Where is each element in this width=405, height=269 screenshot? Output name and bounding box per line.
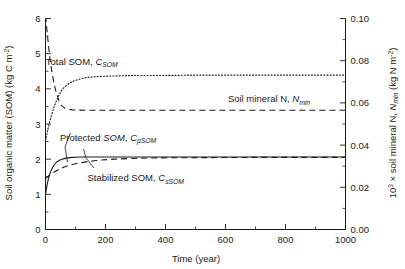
annotation-total-som-text: Total SOM,: [46, 56, 96, 67]
x-axis-title: Time (year): [172, 253, 220, 264]
x-tick-label: 0: [43, 234, 48, 245]
y-axis-right-title-symbol-subscript: min: [392, 92, 399, 103]
y-right-tick-label: 0.06: [351, 97, 370, 108]
y-axis-right-title: 103 × soil mineral N, Nmin (kg N m-2): [387, 48, 400, 199]
x-tick-label: 1000: [335, 234, 356, 245]
y-left-tick-label: 4: [35, 83, 40, 94]
annotation-protected-som-text: Protected: [60, 132, 103, 143]
y-axis-right-title-mid: × soil mineral N,: [387, 110, 398, 184]
y-right-tick-label: 0.08: [351, 55, 370, 66]
y-right-tick-label: 0.10: [351, 13, 370, 24]
y-right-tick-label: 0.04: [351, 140, 370, 151]
annotation-protected-som-italic: SOM: [103, 132, 125, 143]
y-axis-right-title-tail: ): [387, 48, 398, 51]
y-left-tick-label: 5: [35, 48, 40, 59]
annotation-stabilized-som-subscript: sSOM: [165, 178, 184, 185]
y-axis-left-title: Soil organic matter (SOM) (kg C m-2): [3, 46, 15, 201]
y-left-tick-label: 6: [35, 13, 40, 24]
x-tick-label: 400: [158, 234, 174, 245]
y-left-tick-label: 3: [35, 119, 40, 130]
y-left-tick-label: 2: [35, 154, 40, 165]
y-axis-left-title-main: Soil organic matter (SOM) (kg C m: [3, 55, 14, 201]
annotation-stabilized-som-text: Stabilized SOM,: [88, 172, 159, 183]
y-right-tick-label: 0.00: [351, 224, 370, 235]
soil-organic-matter-chart: 02004006008001000 0123456 0.000.020.040.…: [0, 0, 405, 269]
figure-container: 02004006008001000 0123456 0.000.020.040.…: [0, 0, 405, 269]
x-tick-label: 200: [98, 234, 114, 245]
annotation-total-som-subscript: SOM: [102, 61, 118, 68]
y-axis-left-title-tail: ): [3, 46, 14, 49]
x-tick-label: 600: [218, 234, 234, 245]
annotation-soil-mineral-n: Soil mineral N, Nmin: [228, 93, 310, 105]
y-left-tick-label: 0: [35, 224, 40, 235]
annotation-soil-mineral-n-text: Soil mineral N,: [228, 93, 292, 104]
y-axis-right-title-pre: 10: [387, 188, 398, 199]
y-right-tick-label: 0.02: [351, 182, 370, 193]
annotation-soil-mineral-n-subscript: min: [299, 99, 310, 106]
annotation-protected-som-subscript: pSOM: [136, 137, 157, 145]
y-axis-right-title-unit: (kg N m: [387, 57, 398, 93]
y-left-tick-label: 1: [35, 189, 40, 200]
x-tick-label: 800: [278, 234, 294, 245]
